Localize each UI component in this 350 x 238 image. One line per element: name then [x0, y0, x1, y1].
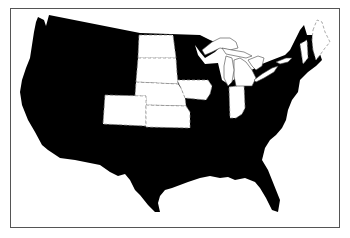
us-map: [0, 0, 350, 238]
state-south-dakota: [136, 58, 178, 84]
state-north-dakota: [138, 35, 176, 58]
state-colorado: [103, 95, 146, 126]
state-maine: [312, 20, 330, 60]
state-kansas: [146, 105, 190, 128]
